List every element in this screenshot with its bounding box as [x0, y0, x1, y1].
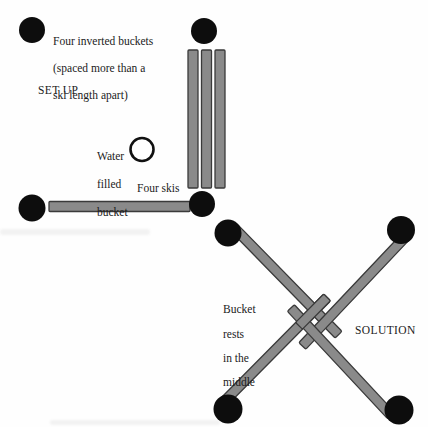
- inverted-bucket: [191, 18, 217, 44]
- inverted-bucket: [215, 220, 242, 247]
- ski: [188, 50, 198, 188]
- note-line: Water: [97, 150, 124, 162]
- note-line: rests: [223, 328, 244, 340]
- ski: [215, 50, 225, 188]
- inverted-bucket: [387, 216, 415, 244]
- setup-section-title: SET UP: [38, 84, 78, 98]
- inverted-bucket: [385, 396, 414, 425]
- note-line: middle: [223, 376, 255, 388]
- puzzle-diagram: Four inverted buckets (spaced more than …: [0, 0, 428, 427]
- water-bucket-label: Water filled bucket: [97, 135, 128, 219]
- note-line: in the: [223, 352, 249, 364]
- water-filled-bucket: [131, 138, 154, 161]
- inverted-bucket: [19, 17, 45, 43]
- inverted-bucket: [189, 191, 215, 217]
- note-line: Bucket: [223, 303, 256, 315]
- solution-note: Bucket rests in the middle: [223, 291, 256, 389]
- setup-vertical-skis: [188, 50, 225, 188]
- note-line: (spaced more than a: [53, 62, 145, 74]
- four-skis-label: Four skis: [137, 182, 180, 196]
- note-line: filled: [97, 178, 121, 190]
- note-line: Four inverted buckets: [53, 35, 153, 47]
- solution-section-title: SOLUTION: [355, 324, 416, 338]
- inverted-bucket: [214, 395, 243, 424]
- inverted-bucket: [19, 195, 46, 222]
- ski: [202, 50, 212, 188]
- note-line: bucket: [97, 206, 128, 218]
